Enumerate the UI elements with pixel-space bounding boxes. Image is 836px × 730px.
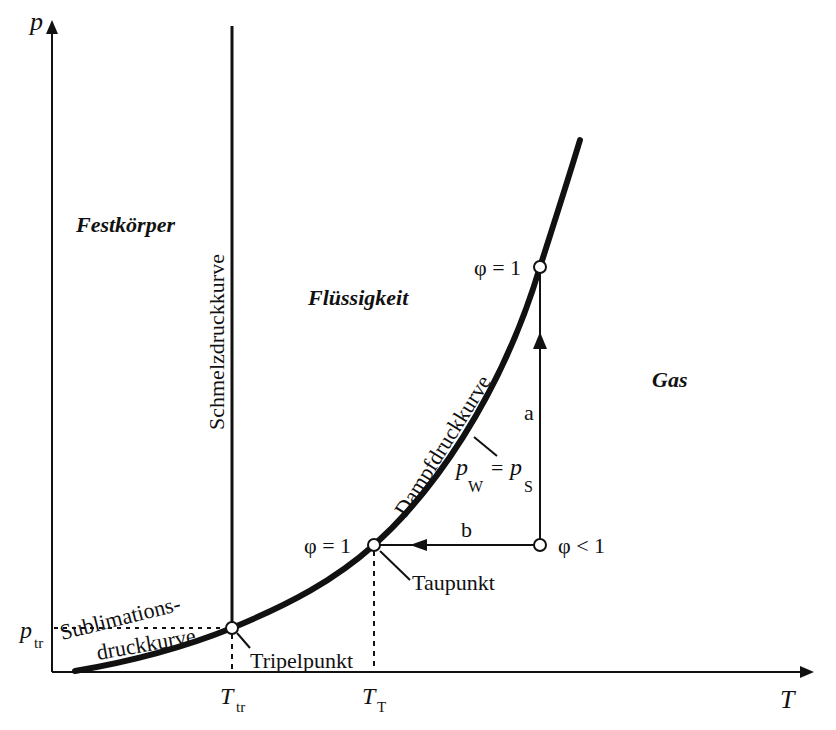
phase-diagram: p T a b Festkörper Flüssigkeit Gas Schme… <box>0 0 836 730</box>
melting-curve-label: Schmelzdruckkurve <box>204 254 229 430</box>
dew-point <box>368 539 380 551</box>
path-a-label: a <box>524 400 534 425</box>
equation-eq: = <box>491 455 503 480</box>
y-axis-arrow-icon <box>46 20 58 34</box>
x-axis-arrow-icon <box>800 666 814 678</box>
region-solid-label: Festkörper <box>75 212 175 237</box>
equation-lhs: p <box>454 454 468 480</box>
equation-leader <box>474 437 497 456</box>
phi-lt-1-label: φ < 1 <box>558 533 605 558</box>
triple-point <box>226 622 238 634</box>
dew-leader <box>380 551 410 580</box>
x-axis-label: T <box>780 685 796 714</box>
vapor-curve-label: Dampfdruckkurve <box>389 371 496 521</box>
phi-eq-1-top-label: φ = 1 <box>474 255 521 280</box>
triple-leader <box>237 633 250 648</box>
t-tr-tick-main: T <box>220 683 235 709</box>
phi-lt-1-point <box>534 539 546 551</box>
equation-lhs-sub: W <box>468 478 484 495</box>
path-a-arrow-icon <box>533 332 547 349</box>
p-tr-tick-sub: tr <box>34 635 43 651</box>
path-b-arrow-icon <box>410 539 427 551</box>
y-axis-label: p <box>28 7 43 36</box>
region-gas-label: Gas <box>652 367 687 392</box>
phi-eq-1-top-point <box>534 261 546 273</box>
region-liquid-label: Flüssigkeit <box>307 285 409 310</box>
equation-rhs-sub: S <box>524 478 533 495</box>
p-tr-tick-main: p <box>18 617 32 643</box>
triple-point-label: Tripelpunkt <box>250 648 353 673</box>
dew-point-label: Taupunkt <box>412 570 495 595</box>
t-tr-tick-sub: tr <box>236 699 245 715</box>
t-t-tick-sub: T <box>377 699 386 715</box>
t-t-tick-main: T <box>362 683 377 709</box>
equation-rhs: p <box>508 454 522 480</box>
path-b-label: b <box>461 517 472 542</box>
phi-eq-1-dew-label: φ = 1 <box>304 533 351 558</box>
